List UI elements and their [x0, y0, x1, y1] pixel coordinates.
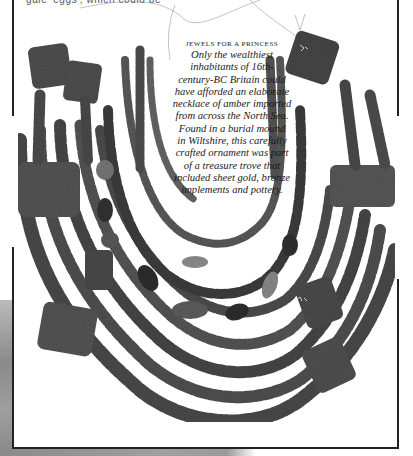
caption-line: in Wiltshire, this carefully: [152, 135, 312, 147]
caption-line: Found in a burial mound: [152, 123, 312, 135]
caption-body: Only the wealthiest inhabitants of 16th-…: [152, 49, 312, 197]
caption-line: have afforded an elaborate: [152, 86, 312, 98]
caption-line: implements and pottery.: [152, 184, 312, 196]
caption-heading: JEWELS FOR A PRINCESS: [152, 40, 312, 48]
figure-caption: JEWELS FOR A PRINCESS Only the wealthies…: [152, 40, 312, 197]
caption-line: inhabitants of 16th-: [152, 61, 312, 73]
caption-line: included sheet gold, bronze: [152, 172, 312, 184]
caption-line: Only the wealthiest: [152, 49, 312, 61]
caption-line: necklace of amber imported: [152, 98, 312, 110]
caption-line: from across the North Sea.: [152, 110, 312, 122]
caption-line: century-BC Britain could: [152, 74, 312, 86]
caption-line: of a treasure trove that: [152, 160, 312, 172]
caption-line: crafted ornament was part: [152, 147, 312, 159]
